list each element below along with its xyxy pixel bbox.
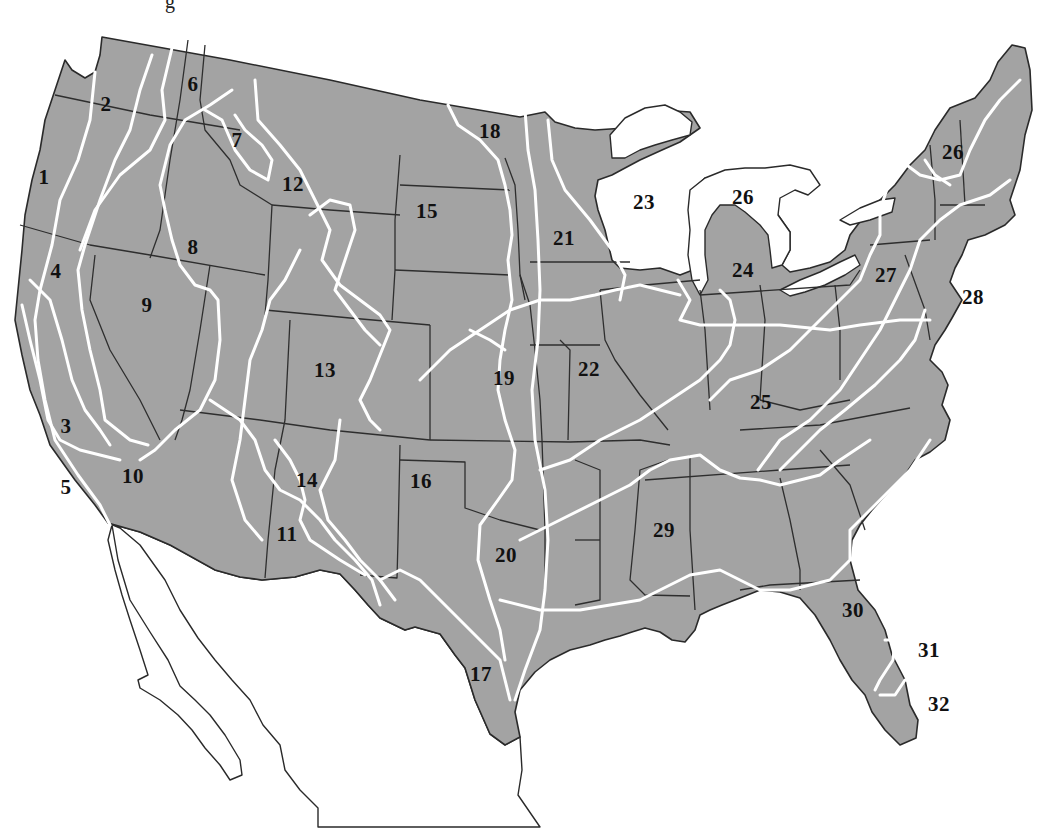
zone-label-11: 11 [277, 522, 298, 547]
zone-map: g [0, 0, 1044, 838]
zone-label-12: 12 [282, 172, 304, 197]
zone-label-19: 19 [493, 366, 515, 391]
zone-label-4: 4 [51, 259, 62, 284]
zone-label-18: 18 [479, 119, 501, 144]
zone-label-23: 23 [633, 190, 655, 215]
zone-label-13: 13 [314, 358, 336, 383]
zone-label-25: 25 [750, 390, 772, 415]
map-canvas [0, 0, 1044, 838]
zone-label-7: 7 [232, 128, 243, 153]
zone-label-21: 21 [553, 226, 575, 251]
zone-label-26a: 26 [732, 185, 754, 210]
zone-label-32: 32 [928, 692, 950, 717]
zone-label-22: 22 [578, 357, 600, 382]
zone-label-6: 6 [188, 72, 199, 97]
zone-label-27: 27 [875, 263, 897, 288]
zone-label-31: 31 [918, 638, 940, 663]
zone-label-14: 14 [296, 468, 318, 493]
zone-label-29: 29 [653, 518, 675, 543]
zone-label-17: 17 [470, 662, 492, 687]
zone-label-3: 3 [61, 414, 72, 439]
zone-label-5: 5 [61, 475, 72, 500]
zone-label-9: 9 [142, 293, 153, 318]
zone-label-20: 20 [495, 543, 517, 568]
zone-label-28: 28 [962, 285, 984, 310]
zone-label-24: 24 [732, 258, 754, 283]
zone-label-8: 8 [188, 235, 199, 260]
zone-label-10: 10 [122, 464, 144, 489]
zone-label-15: 15 [416, 199, 438, 224]
zone-label-30: 30 [842, 598, 864, 623]
zone-label-2: 2 [101, 92, 112, 117]
zone-label-1: 1 [39, 165, 50, 190]
us-landmass [15, 37, 1032, 745]
zone-label-26b: 26 [942, 140, 964, 165]
zone-label-16: 16 [410, 469, 432, 494]
